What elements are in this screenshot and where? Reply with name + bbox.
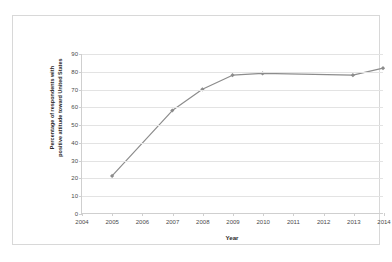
x-tick-label: 2007 bbox=[166, 219, 179, 225]
x-tick-label: 2008 bbox=[196, 219, 209, 225]
x-tick-mark bbox=[354, 213, 355, 216]
gridline-y bbox=[82, 196, 383, 197]
gridline-y bbox=[82, 90, 383, 91]
x-tick-mark bbox=[142, 213, 143, 216]
gridline-y bbox=[82, 161, 383, 162]
y-tick-mark bbox=[79, 54, 82, 55]
y-tick-mark bbox=[79, 90, 82, 91]
x-tick-label: 2005 bbox=[106, 219, 119, 225]
y-tick-mark bbox=[79, 161, 82, 162]
y-tick-label: 60 bbox=[71, 104, 78, 110]
y-tick-label: 80 bbox=[71, 69, 78, 75]
y-axis-title: Percentage of respondents with positive … bbox=[49, 28, 64, 188]
y-tick-mark bbox=[79, 107, 82, 108]
x-tick-label: 2009 bbox=[226, 219, 239, 225]
y-tick-mark bbox=[79, 196, 82, 197]
gridline-y bbox=[82, 143, 383, 144]
x-tick-label: 2014 bbox=[377, 219, 390, 225]
y-tick-label: 0 bbox=[75, 211, 78, 217]
gridline-y bbox=[82, 107, 383, 108]
y-tick-mark bbox=[79, 72, 82, 73]
y-tick-label: 40 bbox=[71, 140, 78, 146]
x-tick-mark bbox=[293, 213, 294, 216]
gridline-y bbox=[82, 125, 383, 126]
y-tick-mark bbox=[79, 125, 82, 126]
gridline-y bbox=[82, 54, 383, 55]
y-tick-mark bbox=[79, 178, 82, 179]
gridline-y bbox=[82, 178, 383, 179]
x-tick-mark bbox=[203, 213, 204, 216]
y-tick-label: 50 bbox=[71, 122, 78, 128]
x-tick-label: 2010 bbox=[257, 219, 270, 225]
y-tick-label: 30 bbox=[71, 158, 78, 164]
y-tick-mark bbox=[79, 143, 82, 144]
line-series bbox=[82, 54, 383, 213]
x-tick-mark bbox=[82, 213, 83, 216]
y-tick-label: 20 bbox=[71, 175, 78, 181]
x-tick-label: 2006 bbox=[136, 219, 149, 225]
x-tick-mark bbox=[233, 213, 234, 216]
x-tick-mark bbox=[112, 213, 113, 216]
data-point-marker bbox=[351, 73, 355, 77]
gridline-y bbox=[82, 72, 383, 73]
chart-figure: Percentage of respondents with positive … bbox=[0, 0, 392, 262]
x-axis-title: Year bbox=[81, 234, 383, 241]
x-tick-label: 2012 bbox=[317, 219, 330, 225]
plot-area: 0102030405060708090200420052006200720082… bbox=[81, 54, 383, 214]
x-tick-label: 2013 bbox=[347, 219, 360, 225]
x-tick-label: 2011 bbox=[287, 219, 300, 225]
data-point-marker bbox=[381, 66, 385, 70]
x-tick-mark bbox=[384, 213, 385, 216]
x-tick-mark bbox=[324, 213, 325, 216]
x-tick-mark bbox=[263, 213, 264, 216]
x-tick-mark bbox=[173, 213, 174, 216]
data-point-marker bbox=[230, 73, 234, 77]
x-tick-label: 2004 bbox=[75, 219, 88, 225]
y-tick-label: 70 bbox=[71, 87, 78, 93]
y-tick-label: 10 bbox=[71, 193, 78, 199]
y-tick-label: 90 bbox=[71, 51, 78, 57]
chart-frame: Percentage of respondents with positive … bbox=[12, 15, 380, 245]
